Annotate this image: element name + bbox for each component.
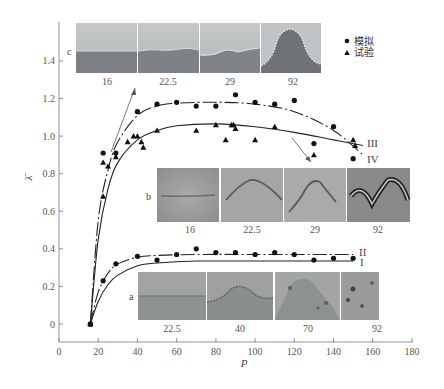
data-point-triangle <box>223 137 229 142</box>
data-point-circle <box>253 100 258 105</box>
x-tick-label: 140 <box>326 346 341 357</box>
panel-b-image-4 <box>347 168 410 222</box>
panel-c-image-3 <box>200 23 260 73</box>
data-point-circle <box>213 250 218 255</box>
panel-label-b: b <box>146 191 151 202</box>
data-point-circle <box>272 250 277 255</box>
data-point-triangle <box>311 152 317 157</box>
y-ticks: 00.20.40.60.81.01.21.4 <box>43 55 64 329</box>
panel-b-caption-1: 16 <box>185 224 195 235</box>
panel-c-image-2 <box>138 23 199 73</box>
data-point-circle <box>331 124 336 129</box>
data-point-circle <box>292 252 297 257</box>
chart: 00.20.40.60.81.01.21.4 02040608010012014… <box>0 0 444 389</box>
data-point-circle <box>154 102 159 107</box>
panel-a-image-3 <box>275 272 340 320</box>
data-point-circle <box>213 103 218 108</box>
panel-b-image-1 <box>157 168 219 222</box>
panel-c-image-4 <box>261 23 321 73</box>
x-tick-label: 20 <box>93 346 103 357</box>
data-point-circle <box>351 156 356 161</box>
data-point-circle <box>351 256 356 261</box>
data-point-triangle <box>125 139 131 144</box>
panel-b-caption-4: 92 <box>373 224 383 235</box>
arrow-to-panel-c <box>111 88 136 152</box>
data-point-circle <box>135 254 140 259</box>
panel-a-image-4 <box>341 272 379 320</box>
panel-c-caption-4: 92 <box>288 76 298 87</box>
data-point-circle <box>174 100 179 105</box>
curve-label-IV: IV <box>367 153 379 165</box>
legend-label-simulation: 模拟 <box>354 35 374 47</box>
panel-a-caption-1: 22.5 <box>163 323 181 334</box>
x-axis-label: P <box>240 357 248 369</box>
panel-a-image-1 <box>138 272 206 320</box>
panel-a-caption-2: 40 <box>235 323 245 334</box>
curve-label-I: I <box>360 256 364 268</box>
data-point-triangle <box>134 133 140 138</box>
data-point-circle <box>101 278 106 283</box>
panel-c-caption-1: 16 <box>102 76 112 87</box>
panel-a-caption-3: 70 <box>303 323 313 334</box>
panel-row-a: a 22.5 40 70 92 <box>129 272 382 334</box>
y-tick-label: 1.4 <box>43 55 56 66</box>
data-point-circle <box>233 92 238 97</box>
data-point-circle <box>331 256 336 261</box>
x-ticks: 020406080100120140160180 <box>57 338 420 357</box>
panel-c-image-1 <box>76 23 137 73</box>
x-tick-label: 180 <box>404 346 419 357</box>
data-point-circle <box>272 102 277 107</box>
panel-row-b: b 16 22.5 29 92 <box>146 168 410 235</box>
x-tick-label: 40 <box>132 346 142 357</box>
data-point-triangle <box>272 124 278 129</box>
panel-b-caption-3: 29 <box>310 224 320 235</box>
data-point-circle <box>194 103 199 108</box>
arrow-to-panel-b <box>292 138 311 162</box>
data-point-circle <box>174 252 179 257</box>
data-point-triangle <box>193 127 199 132</box>
curve-label-III: III <box>367 137 378 149</box>
panel-label-a: a <box>129 291 134 302</box>
y-tick-label: 1.0 <box>43 131 56 142</box>
panel-c-caption-3: 29 <box>225 76 235 87</box>
panel-b-caption-2: 22.5 <box>243 224 261 235</box>
data-point-circle <box>113 261 118 266</box>
x-tick-label: 60 <box>172 346 182 357</box>
panel-b-image-3 <box>284 168 346 222</box>
y-tick-label: 0.4 <box>43 243 56 254</box>
legend-label-experiment: 试验 <box>354 46 374 58</box>
y-axis-label: λ̄ <box>22 173 34 182</box>
y-tick-label: 0.6 <box>43 206 56 217</box>
panel-a-caption-4: 92 <box>372 323 382 334</box>
data-point-circle <box>135 109 140 114</box>
legend-triangle-icon <box>344 50 349 55</box>
panel-a-image-2 <box>207 272 273 320</box>
data-point-triangle <box>213 122 219 127</box>
data-point-triangle <box>138 139 144 144</box>
legend-circle-icon <box>345 39 350 44</box>
data-point-circle <box>88 321 93 326</box>
panel-row-c: c 16 22.5 29 92 <box>67 23 321 87</box>
y-tick-label: 1.2 <box>43 93 56 104</box>
x-tick-label: 120 <box>287 346 302 357</box>
data-point-triangle <box>100 159 106 164</box>
panel-c-caption-2: 22.5 <box>159 76 177 87</box>
data-point-circle <box>194 246 199 251</box>
data-point-triangle <box>140 144 146 149</box>
data-point-circle <box>292 98 297 103</box>
legend: 模拟 试验 <box>344 35 374 58</box>
data-point-triangle <box>105 163 111 168</box>
data-point-triangle <box>350 137 356 142</box>
data-point-circle <box>154 258 159 263</box>
data-point-circle <box>311 141 316 146</box>
panel-label-c: c <box>67 46 72 57</box>
data-point-circle <box>101 150 106 155</box>
data-point-circle <box>233 250 238 255</box>
data-point-circle <box>311 258 316 263</box>
data-point-triangle <box>252 137 258 142</box>
data-point-triangle <box>113 154 119 159</box>
x-tick-label: 80 <box>211 346 221 357</box>
y-tick-label: 0.2 <box>43 281 56 292</box>
x-tick-label: 100 <box>248 346 263 357</box>
data-point-triangle <box>100 193 106 198</box>
